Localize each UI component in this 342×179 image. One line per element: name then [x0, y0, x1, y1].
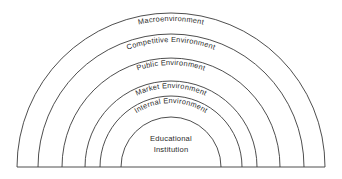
ring-arc-internal-environment — [100, 96, 242, 167]
ring-label-internal-environment: Internal Environment — [133, 96, 210, 115]
ring-label-market-environment: Market Environment — [134, 81, 208, 98]
environment-layers-diagram: Macroenvironment Competitive Environment… — [0, 0, 342, 179]
center-label-line-1: Educational — [150, 134, 192, 143]
ring-arc-market-environment — [85, 81, 257, 167]
ring-label-public-environment: Public Environment — [135, 58, 206, 73]
diagram-canvas: Macroenvironment Competitive Environment… — [0, 0, 342, 179]
center-label-line-2: Institution — [154, 145, 189, 154]
ring-label-macroenvironment: Macroenvironment — [137, 14, 205, 27]
ring-arc-macroenvironment — [17, 13, 325, 167]
